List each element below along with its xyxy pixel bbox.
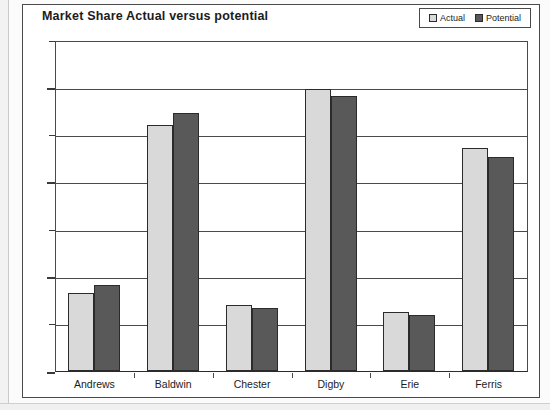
legend-item-potential: Potential [475,13,521,23]
gridline [56,231,527,232]
page-edge-bottom [0,403,550,410]
bar-chester-potential [252,308,278,371]
y-axis-tick [47,88,55,90]
page-edge-left [0,0,9,410]
x-axis-label-baldwin: Baldwin [134,378,213,390]
x-axis-label-digby: Digby [292,378,371,390]
bar-andrews-actual [68,293,94,371]
y-axis-tick [49,324,55,325]
bar-digby-actual [305,89,331,371]
chart-title: Market Share Actual versus potential [42,9,268,23]
legend-label-actual: Actual [440,13,465,23]
bar-digby-potential [331,96,357,371]
y-axis-tick [47,277,55,279]
y-axis-tick [47,372,55,374]
bar-chester-actual [226,305,252,371]
legend-swatch-actual [429,14,437,22]
x-axis-label-andrews: Andrews [55,378,134,390]
bar-andrews-potential [94,285,120,371]
y-axis-tick [49,135,55,136]
x-axis-label-ferris: Ferris [449,378,528,390]
bar-erie-actual [383,312,409,371]
y-axis-tick [49,230,55,231]
bar-ferris-actual [462,148,488,371]
legend-label-potential: Potential [486,13,521,23]
x-axis-label-chester: Chester [213,378,292,390]
x-axis-label-erie: Erie [370,378,449,390]
gridline [56,136,527,137]
y-axis-tick [49,41,55,42]
bar-erie-potential [409,315,435,371]
chart-screenshot: Market Share Actual versus potential Act… [0,0,550,410]
y-axis-tick [47,182,55,184]
plot-area [55,41,528,372]
gridline [56,278,527,279]
bar-baldwin-potential [173,113,199,371]
bar-baldwin-actual [147,125,173,371]
gridline [56,325,527,326]
gridline [56,183,527,184]
bar-ferris-potential [488,157,514,371]
chart-legend: Actual Potential [419,8,531,28]
legend-item-actual: Actual [429,13,465,23]
gridline [56,89,527,90]
legend-swatch-potential [475,14,483,22]
